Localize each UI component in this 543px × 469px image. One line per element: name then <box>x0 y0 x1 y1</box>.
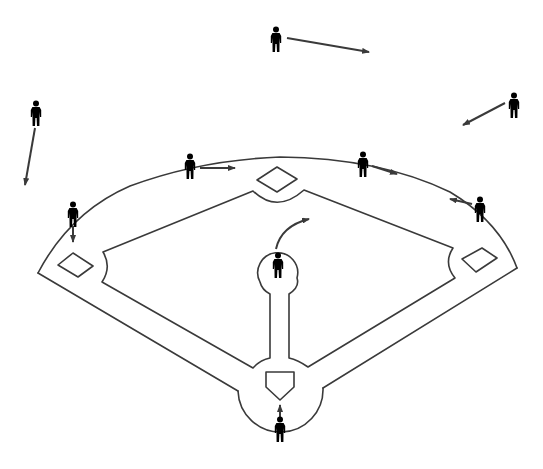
third-base <box>58 253 93 277</box>
pitcher-icon <box>273 253 283 279</box>
first-base <box>462 248 497 272</box>
players <box>31 27 519 443</box>
first-base-foul-line <box>323 268 517 388</box>
right-fielder-icon <box>509 93 519 119</box>
batter-icon <box>275 417 285 443</box>
field-lines <box>38 157 517 432</box>
center-fielder-arrow-icon <box>287 38 369 52</box>
baseball-field-diagram <box>0 0 543 469</box>
right-fielder-arrow-icon <box>463 103 505 125</box>
home-plate <box>266 372 294 400</box>
center-fielder-icon <box>271 27 281 53</box>
third-base-foul-line <box>38 273 238 391</box>
left-fielder-arrow-icon <box>25 128 35 185</box>
fielder-arrow-right-center-icon <box>372 166 397 174</box>
left-fielder-icon <box>31 101 41 127</box>
third-baseman-icon <box>68 202 78 228</box>
pitcher-arrow-icon <box>276 219 309 249</box>
second-base <box>257 167 297 192</box>
second-baseman-icon <box>185 154 195 180</box>
